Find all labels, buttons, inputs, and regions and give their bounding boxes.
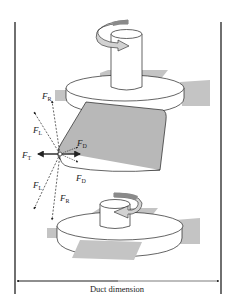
label-fr-bottom: FR <box>59 193 70 204</box>
fr-top-arrow <box>52 101 60 154</box>
bottom-rotor-assembly <box>47 193 200 260</box>
force-origin <box>58 152 62 156</box>
fr-bottom-arrow <box>52 154 60 220</box>
bottom-vane-front <box>72 240 142 260</box>
label-fr-top: FR <box>41 91 52 102</box>
label-fl-top: FL <box>32 125 43 136</box>
top-vane-right <box>180 80 210 106</box>
label-fd-bottom: FD <box>75 173 87 184</box>
top-shaft <box>111 34 142 89</box>
top-rotor-assembly <box>55 20 210 115</box>
duct-dimension-label: Duct dimension <box>90 284 145 294</box>
propeller-duct-diagram: FR FL FD FT FD FL FR Duct dimension <box>0 0 233 303</box>
label-ft: FT <box>21 150 32 161</box>
label-fl-bottom: FL <box>32 180 43 191</box>
top-shaft-top <box>111 30 142 39</box>
